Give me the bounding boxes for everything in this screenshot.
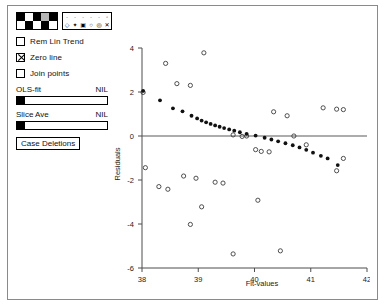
checkbox-unchecked-icon[interactable]: [16, 69, 25, 78]
color-swatch-1-3[interactable]: [41, 21, 49, 29]
data-point[interactable]: [238, 130, 242, 134]
data-point[interactable]: [181, 109, 185, 113]
data-point[interactable]: [276, 139, 280, 143]
data-point[interactable]: [341, 156, 345, 160]
x-tick-label: 38: [138, 275, 146, 284]
color-swatch-0-4[interactable]: [49, 13, 57, 21]
data-point[interactable]: [213, 124, 217, 128]
symbol-swatch-0-3[interactable]: ·: [87, 13, 95, 21]
data-point[interactable]: [298, 146, 302, 150]
filled-circle-points[interactable]: [141, 89, 339, 167]
data-point[interactable]: [200, 119, 204, 123]
data-point[interactable]: [245, 132, 249, 136]
color-swatch-0-2[interactable]: [33, 13, 41, 21]
slider-header: Slice AveNIL: [16, 110, 108, 119]
data-point[interactable]: [326, 157, 330, 161]
color-swatch-0-0[interactable]: [17, 13, 25, 21]
symbol-swatch-1-2[interactable]: ▣: [79, 21, 87, 29]
data-point[interactable]: [213, 180, 217, 184]
symbol-swatch-1-5[interactable]: ✕: [103, 21, 111, 29]
data-point[interactable]: [321, 106, 325, 110]
data-point[interactable]: [254, 148, 258, 152]
data-point[interactable]: [141, 89, 145, 93]
data-point[interactable]: [335, 169, 339, 173]
data-point[interactable]: [209, 122, 213, 126]
data-point[interactable]: [341, 108, 345, 112]
data-point[interactable]: [157, 185, 161, 189]
data-point[interactable]: [335, 107, 339, 111]
data-point[interactable]: [304, 148, 308, 152]
checkbox-row-0[interactable]: Rem Lin Trend: [16, 35, 108, 48]
data-point[interactable]: [231, 252, 235, 256]
data-point[interactable]: [311, 151, 315, 155]
data-point[interactable]: [194, 176, 198, 180]
color-palette[interactable]: [16, 12, 58, 30]
color-swatch-1-1[interactable]: [25, 21, 33, 29]
palette-row: ·····◦◇✦▣○◎✕: [16, 12, 108, 30]
checkbox-checked-icon[interactable]: [16, 53, 25, 62]
symbol-swatch-0-5[interactable]: ◦: [103, 13, 111, 21]
data-point[interactable]: [164, 61, 168, 65]
data-point[interactable]: [269, 138, 273, 142]
data-point[interactable]: [336, 163, 340, 167]
data-point[interactable]: [188, 83, 192, 87]
symbol-swatch-0-1[interactable]: ·: [71, 13, 79, 21]
x-tick-label: 39: [194, 275, 202, 284]
data-point[interactable]: [256, 198, 260, 202]
color-swatch-1-0[interactable]: [17, 21, 25, 29]
checkbox-row-2[interactable]: Join points: [16, 67, 108, 80]
symbol-palette[interactable]: ·····◦◇✦▣○◎✕: [62, 12, 112, 30]
symbol-swatch-1-4[interactable]: ◎: [95, 21, 103, 29]
data-point[interactable]: [304, 143, 308, 147]
data-point[interactable]: [227, 128, 231, 132]
data-point[interactable]: [278, 249, 282, 253]
data-point[interactable]: [232, 129, 236, 133]
symbol-swatch-0-0[interactable]: ·: [63, 13, 71, 21]
data-point[interactable]: [222, 126, 226, 130]
data-point[interactable]: [182, 174, 186, 178]
data-point[interactable]: [143, 166, 147, 170]
data-point[interactable]: [284, 141, 288, 145]
data-point[interactable]: [267, 150, 271, 154]
data-point[interactable]: [175, 82, 179, 86]
color-swatch-1-2[interactable]: [33, 21, 41, 29]
color-swatch-0-1[interactable]: [25, 13, 33, 21]
data-point[interactable]: [158, 98, 162, 102]
symbol-swatch-1-1[interactable]: ✦: [71, 21, 79, 29]
data-point[interactable]: [319, 154, 323, 158]
symbol-swatch-1-3[interactable]: ○: [87, 21, 95, 29]
checkbox-unchecked-icon[interactable]: [16, 37, 25, 46]
data-point[interactable]: [221, 181, 225, 185]
data-point[interactable]: [190, 114, 194, 118]
data-point[interactable]: [171, 106, 175, 110]
data-point[interactable]: [254, 134, 258, 138]
slider-track[interactable]: [16, 96, 108, 105]
x-axis-label: Fit-values: [246, 279, 279, 288]
slider-block-0: OLS-fitNIL: [16, 85, 108, 105]
open-circle-points[interactable]: [141, 51, 345, 256]
data-point[interactable]: [188, 222, 192, 226]
data-point[interactable]: [218, 125, 222, 129]
data-point[interactable]: [195, 117, 199, 121]
case-deletions-button[interactable]: Case Deletions: [16, 137, 80, 150]
data-point[interactable]: [259, 149, 263, 153]
data-point[interactable]: [166, 187, 170, 191]
data-point[interactable]: [200, 205, 204, 209]
data-point[interactable]: [285, 114, 289, 118]
data-point[interactable]: [272, 110, 276, 114]
color-swatch-1-4[interactable]: [49, 21, 57, 29]
data-point[interactable]: [291, 143, 295, 147]
checkbox-row-1[interactable]: Zero line: [16, 51, 108, 64]
data-point[interactable]: [202, 51, 206, 55]
slider-label: OLS-fit: [16, 85, 41, 94]
slider-thumb[interactable]: [17, 97, 25, 104]
symbol-swatch-1-0[interactable]: ◇: [63, 21, 71, 29]
data-point[interactable]: [263, 136, 267, 140]
symbol-swatch-0-4[interactable]: ·: [95, 13, 103, 21]
x-tick-label: 42: [363, 275, 370, 284]
color-swatch-0-3[interactable]: [41, 13, 49, 21]
slider-thumb[interactable]: [17, 122, 25, 129]
data-point[interactable]: [204, 120, 208, 124]
slider-track[interactable]: [16, 121, 108, 130]
symbol-swatch-0-2[interactable]: ·: [79, 13, 87, 21]
